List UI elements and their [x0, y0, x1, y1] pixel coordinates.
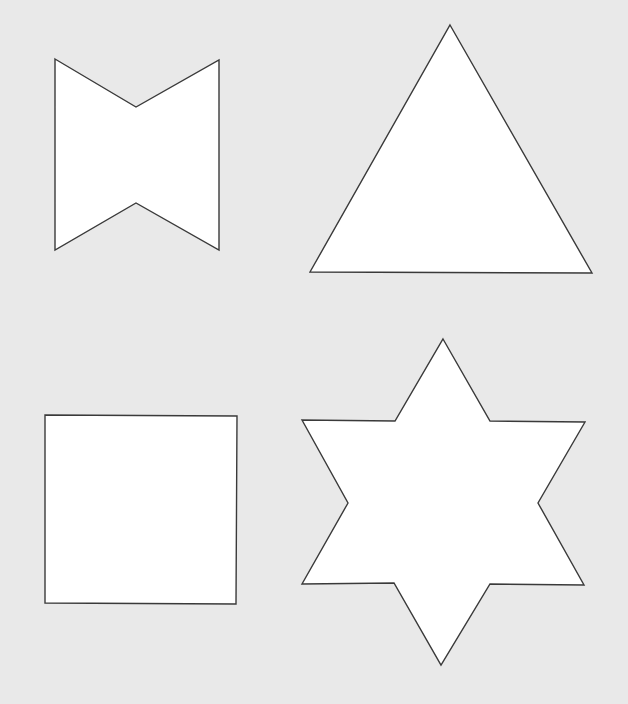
- bowtie-shape: [55, 59, 219, 250]
- diagram-canvas: [0, 0, 628, 704]
- star-shape: [302, 339, 585, 665]
- triangle-shape: [310, 25, 592, 273]
- square-shape: [45, 415, 237, 604]
- shapes-svg: [0, 0, 628, 704]
